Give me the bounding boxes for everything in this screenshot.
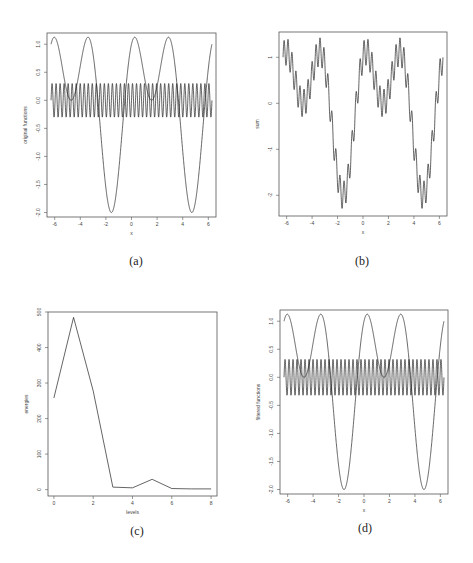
plot-frame bbox=[48, 312, 217, 496]
x-tick-label: -4 bbox=[310, 220, 315, 226]
x-axis-label: levels bbox=[126, 509, 139, 515]
y-tick-label: -1.0 bbox=[268, 429, 274, 438]
x-axis-label: x bbox=[130, 230, 133, 236]
x-tick-label: -2 bbox=[336, 498, 341, 504]
y-tick-label: 1.0 bbox=[268, 318, 274, 325]
y-tick-label: -2.0 bbox=[35, 208, 41, 217]
x-axis-label: x bbox=[362, 229, 365, 235]
x-tick-label: -2 bbox=[104, 221, 109, 227]
x-tick-label: -6 bbox=[285, 498, 290, 504]
x-tick-label: 6 bbox=[439, 498, 442, 504]
x-tick-label: 2 bbox=[388, 498, 391, 504]
y-tick-label: 0.5 bbox=[268, 346, 274, 353]
y-tick-label: 0.5 bbox=[35, 69, 41, 76]
y-tick-label: 500 bbox=[36, 308, 42, 317]
x-tick-label: 2 bbox=[156, 221, 159, 227]
y-tick-label: -2 bbox=[267, 193, 273, 198]
x-tick-label: 0 bbox=[362, 220, 365, 226]
y-tick-label: 0 bbox=[36, 488, 42, 491]
plot-frame bbox=[280, 310, 448, 494]
x-tick-label: -6 bbox=[52, 221, 57, 227]
y-tick-label: -1.5 bbox=[35, 180, 41, 189]
x-tick-label: -6 bbox=[284, 220, 289, 226]
series-line bbox=[54, 317, 211, 489]
caption-a: (a) bbox=[129, 254, 142, 269]
y-tick-label: -0.5 bbox=[35, 124, 41, 133]
y-tick-label: -0.5 bbox=[268, 401, 274, 410]
y-tick-label: -1.5 bbox=[268, 457, 274, 466]
x-tick-label: 4 bbox=[413, 220, 416, 226]
x-tick-label: 6 bbox=[207, 221, 210, 227]
y-axis-label: sum bbox=[254, 119, 260, 128]
x-tick-label: -2 bbox=[335, 220, 340, 226]
x-tick-label: 0 bbox=[53, 500, 56, 506]
y-axis-label: energies bbox=[23, 394, 29, 414]
x-tick-label: -4 bbox=[311, 498, 316, 504]
x-tick-label: 2 bbox=[92, 500, 95, 506]
caption-c: (c) bbox=[130, 524, 143, 539]
y-tick-label: 0.0 bbox=[268, 374, 274, 381]
series-line bbox=[284, 314, 444, 489]
caption-d: (d) bbox=[358, 521, 372, 536]
y-tick-label: 400 bbox=[36, 343, 42, 352]
y-axis-label: original functions bbox=[22, 106, 28, 144]
panel-d-plot: -6-4-20246-2.0-1.5-1.0-0.50.00.51.0xfilt… bbox=[255, 310, 448, 513]
x-tick-label: 6 bbox=[170, 500, 173, 506]
x-tick-label: 4 bbox=[181, 221, 184, 227]
x-tick-label: 0 bbox=[363, 498, 366, 504]
y-tick-label: 300 bbox=[36, 379, 42, 388]
y-axis-label: filtered functions bbox=[255, 383, 261, 420]
x-tick-label: 4 bbox=[131, 500, 134, 506]
y-tick-label: 0 bbox=[267, 102, 273, 105]
x-tick-label: -4 bbox=[78, 221, 83, 227]
x-tick-label: 8 bbox=[210, 500, 213, 506]
panel-b-plot: -6-4-20246-2-101xsum bbox=[254, 32, 447, 235]
plot-frame bbox=[47, 33, 216, 217]
figure-canvas: -6-4-20246-2.0-1.5-1.0-0.50.00.51.0xorig… bbox=[0, 0, 473, 563]
y-tick-label: -1 bbox=[267, 147, 273, 152]
x-tick-label: 6 bbox=[438, 220, 441, 226]
y-tick-label: 1.0 bbox=[35, 41, 41, 48]
y-tick-label: 1 bbox=[267, 56, 273, 59]
series-line bbox=[51, 84, 212, 118]
x-tick-label: 4 bbox=[414, 498, 417, 504]
panel-a-plot: -6-4-20246-2.0-1.5-1.0-0.50.00.51.0xorig… bbox=[22, 33, 216, 236]
y-tick-label: -1.0 bbox=[35, 152, 41, 161]
series-line bbox=[283, 38, 443, 209]
y-tick-label: -2.0 bbox=[268, 485, 274, 494]
caption-b: (b) bbox=[355, 254, 369, 269]
x-tick-label: 2 bbox=[387, 220, 390, 226]
x-tick-label: 0 bbox=[130, 221, 133, 227]
x-axis-label: x bbox=[363, 507, 366, 513]
panel-c-plot: 024680100200300400500levelsenergies bbox=[23, 308, 217, 515]
y-tick-label: 200 bbox=[36, 414, 42, 423]
series-line bbox=[51, 37, 212, 212]
y-tick-label: 100 bbox=[36, 450, 42, 459]
y-tick-label: 0.0 bbox=[35, 97, 41, 104]
series-line bbox=[284, 359, 444, 395]
